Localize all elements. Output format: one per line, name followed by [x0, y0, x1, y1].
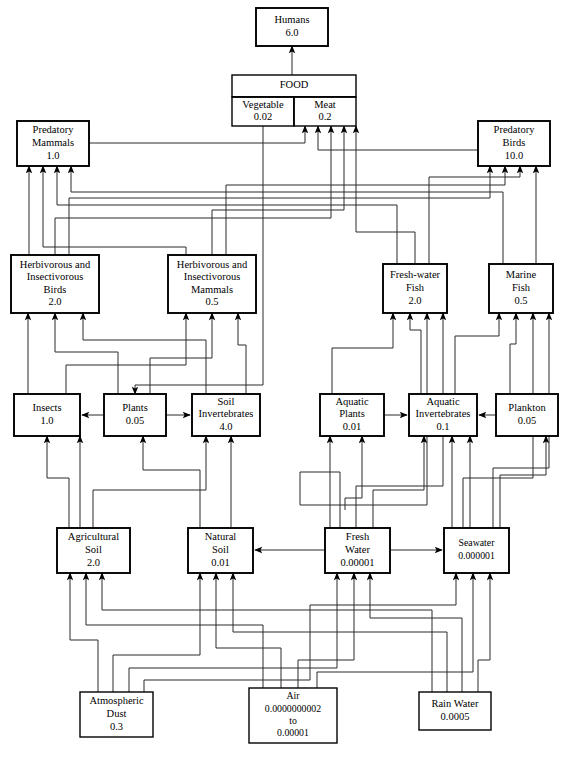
food-line: FOOD — [280, 79, 309, 90]
predatory-birds-line: 10.0 — [505, 150, 523, 161]
connector-soilinv-to-herbbirds — [83, 313, 206, 394]
plankton-line: Plankton — [508, 402, 546, 413]
aquatic-invertebrates-line: Aquatic — [426, 396, 460, 407]
predatory-mammals-line: Predatory — [33, 124, 75, 135]
box-plankton[interactable]: Plankton0.05 — [496, 394, 558, 436]
herbivorous-insectivorous-mammals-line: Herbivorous and — [177, 259, 248, 270]
connector-herbmam-to-meat — [212, 126, 344, 255]
box-predatory-birds[interactable]: PredatoryBirds10.0 — [478, 121, 550, 166]
marine-fish-line: 0.5 — [514, 295, 527, 306]
box-herbivorous-insectivorous-mammals[interactable]: Herbivorous andInsectivorousMammals0.5 — [168, 255, 256, 313]
box-fresh-water[interactable]: FreshWater0.00001 — [325, 528, 390, 573]
box-plants[interactable]: Plants0.05 — [104, 394, 166, 436]
herbivorous-insectivorous-mammals-line: Insectivorous — [184, 271, 241, 282]
connector-predbirds-to-meat — [318, 126, 478, 150]
connector-air-to-freshwater — [298, 573, 354, 688]
natural-soil-line: Natural — [205, 531, 237, 542]
connector-soilinv-to-herbmam — [238, 313, 246, 394]
connector-fwfish-to-predmam — [57, 166, 397, 264]
seawater-line: 0.000001 — [458, 550, 495, 561]
plants-line: Plants — [122, 402, 148, 413]
herbivorous-insectivorous-birds-line: 2.0 — [48, 296, 61, 307]
connector-herbbirds-to-meat — [55, 126, 331, 255]
box-atmospheric-dust[interactable]: AtmosphericDust0.3 — [80, 692, 153, 737]
predatory-birds-line: Birds — [503, 137, 526, 148]
air-line: Air — [286, 690, 300, 701]
aquatic-invertebrates-line: Invertebrates — [416, 408, 471, 419]
box-natural-soil[interactable]: NaturalSoil0.01 — [188, 528, 253, 573]
connector-air-to-natsoil — [216, 573, 281, 688]
box-aquatic-invertebrates[interactable]: AquaticInvertebrates0.1 — [409, 394, 477, 436]
connector-fwfish-to-meat — [356, 126, 415, 264]
air-line: to — [289, 715, 297, 726]
connector-atmdust-to-natsoil — [113, 573, 200, 692]
herbivorous-insectivorous-birds-line: Birds — [44, 284, 67, 295]
food-meat-line: Meat — [314, 99, 336, 110]
herbivorous-insectivorous-birds-line: Insectivorous — [27, 271, 84, 282]
connector-freshwater-to-aqplants2 — [345, 436, 362, 510]
aquatic-plants-line: Aquatic — [335, 396, 369, 407]
fresh-water-line: 0.00001 — [340, 557, 374, 568]
atmospheric-dust-line: Atmospheric — [89, 695, 144, 706]
connector-atmdust-to-agrisoil — [70, 573, 98, 692]
box-food-meat[interactable]: Meat0.2 — [294, 97, 356, 126]
seawater-line: Seawater — [459, 537, 496, 548]
box-herbivorous-insectivorous-birds[interactable]: Herbivorous andInsectivorousBirds2.0 — [11, 255, 99, 313]
box-food[interactable]: FOOD — [232, 75, 356, 97]
fresh-water-fish-line: Fish — [406, 282, 425, 293]
connector-plants-to-herbmam — [150, 313, 212, 394]
connector-air-to-seawater — [317, 573, 473, 688]
connector-predmam-to-meat — [89, 126, 305, 143]
box-fresh-water-fish[interactable]: Fresh-waterFish2.0 — [383, 264, 447, 313]
box-air[interactable]: Air0.0000000002to0.00001 — [249, 688, 337, 743]
connector-agrisoil-to-insects — [47, 436, 69, 528]
connector-plants-to-herbbirds — [55, 313, 118, 394]
aquatic-invertebrates-line: 0.1 — [436, 421, 449, 432]
box-agricultural-soil[interactable]: AgriculturalSoil2.0 — [57, 528, 130, 573]
box-food-vegetable[interactable]: Vegetable0.02 — [232, 97, 294, 126]
predatory-mammals-line: 1.0 — [46, 150, 59, 161]
predatory-birds-line: Predatory — [494, 124, 536, 135]
predatory-mammals-line: Mammals — [32, 137, 74, 148]
rain-water-line: 0.0005 — [441, 711, 470, 722]
fresh-water-line: Water — [345, 544, 370, 555]
box-rain-water[interactable]: Rain Water0.0005 — [419, 692, 491, 730]
soil-invertebrates-line: Soil — [218, 396, 235, 407]
connector-aqinv-to-fwfish — [410, 313, 421, 394]
herbivorous-insectivorous-mammals-line: 0.5 — [205, 296, 218, 307]
agricultural-soil-line: Soil — [85, 544, 102, 555]
food-meat-line: 0.2 — [318, 111, 331, 122]
food-chain-diagram: Humans6.0FOODVegetable0.02Meat0.2Predato… — [0, 0, 573, 761]
connector-rainwater-to-natsoil — [233, 573, 447, 692]
fresh-water-line: Fresh — [346, 531, 370, 542]
box-seawater[interactable]: Seawater0.000001 — [444, 528, 509, 573]
connector-plankton-to-marinefish — [510, 313, 516, 394]
connector-insects-to-herbmam — [66, 313, 186, 394]
box-aquatic-plants[interactable]: AquaticPlants0.01 — [320, 394, 384, 436]
connector-aqinv-to-marinefish — [455, 313, 499, 394]
box-soil-invertebrates[interactable]: SoilInvertebrates4.0 — [192, 394, 260, 436]
connector-aqplants-to-fwfish — [332, 313, 393, 394]
box-insects[interactable]: Insects1.0 — [14, 394, 80, 436]
air-line: 0.00001 — [277, 727, 309, 738]
atmospheric-dust-line: 0.3 — [110, 721, 123, 732]
connector-layer — [28, 46, 549, 692]
fresh-water-fish-line: Fresh-water — [390, 269, 441, 280]
aquatic-plants-line: 0.01 — [343, 421, 361, 432]
connector-fwfish-to-predbirds — [429, 166, 520, 264]
natural-soil-line: Soil — [212, 544, 229, 555]
insects-line: 1.0 — [40, 415, 53, 426]
connector-freshwater-to-aqinv — [373, 436, 424, 528]
connector-seawater-to-plankton2 — [500, 436, 546, 528]
fresh-water-fish-line: 2.0 — [408, 295, 421, 306]
humans-line: 6.0 — [285, 27, 298, 38]
aquatic-plants-line: Plants — [339, 408, 365, 419]
box-predatory-mammals[interactable]: PredatoryMammals1.0 — [17, 121, 89, 166]
box-humans[interactable]: Humans6.0 — [256, 8, 328, 46]
plants-line: 0.05 — [126, 415, 144, 426]
soil-invertebrates-line: 4.0 — [219, 421, 232, 432]
box-marine-fish[interactable]: MarineFish0.5 — [489, 264, 553, 313]
connector-agrisoil-to-soilinv — [93, 436, 206, 528]
marine-fish-line: Fish — [512, 282, 531, 293]
rain-water-line: Rain Water — [431, 698, 479, 709]
